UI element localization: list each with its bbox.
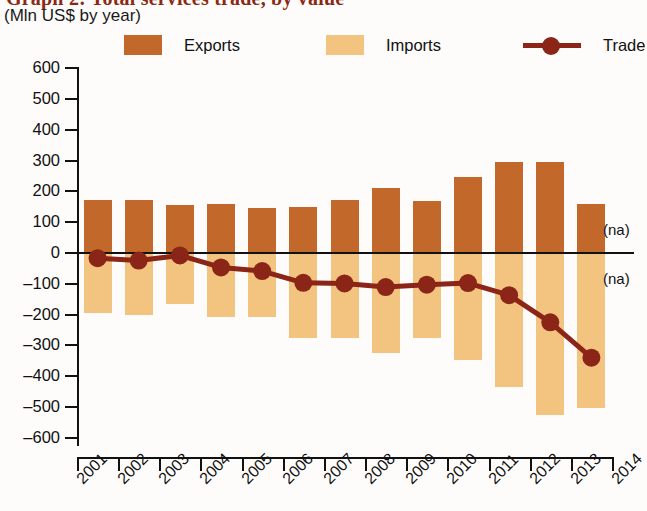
table-row — [372, 188, 400, 252]
y-axis-label: 100 — [0, 212, 60, 231]
y-axis-label: –400 — [0, 366, 60, 385]
x-axis-label: 2013 — [567, 450, 605, 488]
x-axis-label: 2006 — [279, 450, 317, 488]
y-axis-label: 200 — [0, 181, 60, 200]
x-axis-label: 2004 — [196, 450, 234, 488]
x-axis-label: 2007 — [320, 450, 358, 488]
table-row — [413, 254, 441, 338]
y-axis — [77, 67, 79, 446]
chart-root: Graph 2: Total services trade, by value … — [0, 0, 647, 511]
y-axis-label: –500 — [0, 397, 60, 416]
y-axis-tick — [65, 221, 77, 223]
y-axis-label: –100 — [0, 273, 60, 292]
table-row — [331, 254, 359, 338]
na-label-imports: (na) — [603, 270, 630, 287]
table-row — [536, 254, 564, 415]
na-label-exports: (na) — [603, 221, 630, 238]
x-axis-label: 2014 — [608, 450, 646, 488]
x-axis-label: 2009 — [402, 450, 440, 488]
table-row — [331, 200, 359, 252]
x-axis-label: 2001 — [73, 450, 111, 488]
x-axis-label: 2008 — [361, 450, 399, 488]
x-axis-label: 2002 — [114, 450, 152, 488]
y-axis-tick — [65, 160, 77, 162]
y-axis-tick — [65, 129, 77, 131]
table-row — [577, 204, 605, 252]
y-axis-label: 600 — [0, 58, 60, 77]
x-axis-label: 2012 — [526, 450, 564, 488]
table-row — [495, 254, 523, 387]
y-axis-tick — [65, 283, 77, 285]
table-row — [125, 254, 153, 315]
table-row — [289, 254, 317, 338]
table-row — [84, 254, 112, 313]
table-row — [413, 201, 441, 252]
table-row — [125, 200, 153, 252]
table-row — [166, 254, 194, 304]
table-row — [536, 162, 564, 252]
table-row — [454, 254, 482, 360]
table-row — [207, 204, 235, 252]
y-axis-tick — [65, 190, 77, 192]
y-axis-tick — [65, 252, 77, 254]
table-row — [248, 254, 276, 317]
table-row — [248, 208, 276, 252]
y-axis-tick — [65, 375, 77, 377]
table-row — [454, 177, 482, 252]
y-axis-label: 300 — [0, 150, 60, 169]
table-row — [289, 207, 317, 252]
x-axis-label: 2005 — [238, 450, 276, 488]
table-row — [495, 162, 523, 252]
y-axis-label: 400 — [0, 119, 60, 138]
y-axis-tick — [65, 98, 77, 100]
x-axis-label: 2010 — [443, 450, 481, 488]
table-row — [84, 200, 112, 252]
y-axis-tick — [65, 406, 77, 408]
y-axis-label: –300 — [0, 335, 60, 354]
y-axis-label: –200 — [0, 304, 60, 323]
y-axis-tick — [65, 437, 77, 439]
table-row — [372, 254, 400, 353]
table-row — [577, 254, 605, 408]
y-axis-tick — [65, 67, 77, 69]
y-axis-label: 500 — [0, 88, 60, 107]
plot-area: 6005004003002001000–100–200–300–400–500–… — [0, 0, 647, 511]
y-axis-label: –600 — [0, 427, 60, 446]
x-axis-label: 2003 — [155, 450, 193, 488]
y-axis-tick — [65, 344, 77, 346]
table-row — [207, 254, 235, 317]
y-axis-label: 0 — [0, 243, 60, 262]
y-axis-tick — [65, 314, 77, 316]
table-row — [166, 205, 194, 252]
